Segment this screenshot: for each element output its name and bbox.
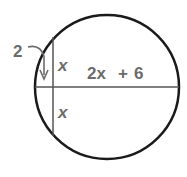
label-plus: + — [118, 64, 128, 83]
label-lower-x: x — [57, 103, 69, 122]
circle-diagram: 2 x x 2x + 6 — [0, 0, 187, 177]
label-segment-2: 2 — [13, 42, 22, 61]
label-2x: 2x — [87, 64, 106, 83]
label-six: 6 — [134, 64, 143, 83]
label-upper-x: x — [57, 56, 69, 75]
